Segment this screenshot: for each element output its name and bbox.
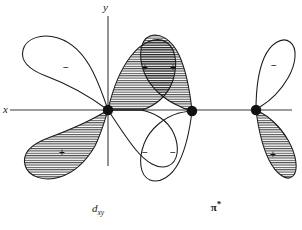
sign-pistar-right-lower: + — [270, 149, 276, 160]
sign-pistar-left-lower: − — [170, 147, 176, 158]
metal-center-dot — [103, 105, 113, 115]
sign-pistar-right-upper: − — [271, 60, 277, 71]
sign-dxy-lower-right: − — [142, 147, 148, 158]
dxy-orbital-caption: dxy — [92, 202, 105, 217]
orbital-diagram-canvas: x y − + — [0, 0, 302, 230]
ligand-atom-2-dot — [251, 105, 261, 115]
captions-group: dxy π* — [92, 199, 222, 217]
orbital-overlap-figure: x y − + — [0, 0, 302, 230]
x-axis-label: x — [2, 103, 8, 115]
sign-dxy-upper-left: − — [63, 62, 69, 73]
pistar-left-lower-lobe — [141, 111, 192, 181]
dxy-caption-subscript: xy — [96, 208, 104, 217]
sign-pistar-left-upper: + — [170, 62, 176, 73]
ligand-atom-1-dot — [187, 106, 197, 116]
pistar-caption-superscript: * — [217, 199, 222, 209]
dxy-upper-left-lobe — [22, 36, 108, 110]
sign-dxy-lower-left: + — [59, 147, 65, 158]
sign-dxy-upper-right: + — [142, 62, 148, 73]
y-axis-label: y — [102, 1, 108, 13]
pistar-right-upper-lobe — [256, 40, 295, 110]
pistar-orbital-caption: π* — [211, 199, 222, 213]
